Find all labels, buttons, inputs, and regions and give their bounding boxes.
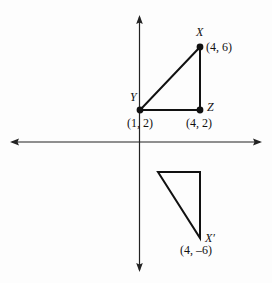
label-point-z: Z [207,101,214,113]
label-coord-y: (1, 2) [127,117,153,129]
coordinate-plane-figure: X (4, 6) Y (1, 2) Z (4, 2) X′ (4, –6) [0,0,272,283]
triangle-x-prime [158,172,200,238]
triangle-xyz [137,44,204,114]
triangle-x-prime-outline [158,172,200,238]
label-coord-x-prime: (4, –6) [180,244,212,256]
y-axis [136,15,143,272]
vertex-y-dot [137,107,144,114]
label-coord-z: (4, 2) [186,117,212,129]
label-coord-x: (4, 6) [206,41,232,53]
label-point-y: Y [130,91,137,103]
vertex-x-dot [197,44,204,51]
triangle-xyz-outline [140,47,200,110]
label-point-x: X [196,26,203,38]
vertex-z-dot [197,107,204,114]
x-axis [10,138,262,145]
